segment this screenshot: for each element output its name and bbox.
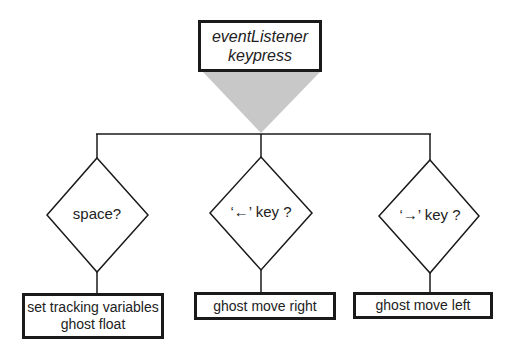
root-line-1: eventListener — [212, 27, 308, 46]
action-box-move-right: ghost move right — [194, 292, 336, 320]
action-box-move-left: ghost move left — [353, 292, 493, 319]
action-2-line-1: ghost move right — [213, 298, 317, 315]
decision-label-space: space? — [47, 205, 147, 222]
action-1-line-1: set tracking variables — [27, 299, 159, 316]
action-box-ghost-float: set tracking variables ghost float — [22, 293, 164, 339]
event-listener-box: eventListener keypress — [198, 20, 322, 72]
root-line-2: keypress — [228, 46, 292, 65]
action-3-line-1: ghost move left — [376, 297, 471, 314]
decision-label-left-arrow: ‘←’ key ? — [211, 203, 311, 220]
action-1-line-2: ghost float — [61, 316, 126, 333]
merge-triangle — [203, 72, 320, 133]
decision-label-right-arrow: ‘→’ key ? — [380, 206, 480, 223]
